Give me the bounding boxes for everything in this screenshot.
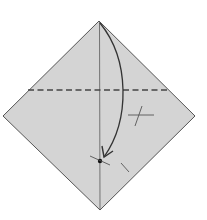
center-crease: [100, 22, 101, 209]
paper-square: [3, 21, 195, 210]
origami-diagram: [0, 0, 207, 220]
